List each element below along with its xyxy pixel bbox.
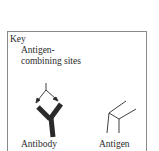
antigen-icon bbox=[107, 101, 136, 133]
key-diagram bbox=[0, 0, 159, 151]
antibody-icon bbox=[38, 104, 61, 137]
pointer-arrows-icon bbox=[36, 83, 58, 103]
